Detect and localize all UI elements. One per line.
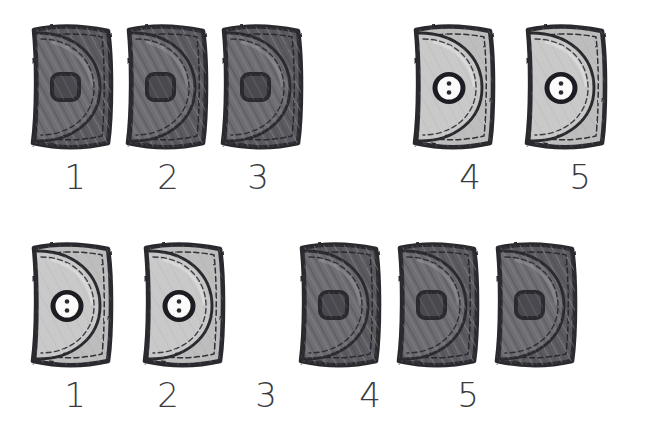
count-numeral-top-row-2: 2 (138, 160, 198, 194)
purse-bottom-row-5 (486, 240, 582, 370)
purse-top-row-4 (404, 22, 500, 152)
top-row: 1 2 (0, 0, 669, 210)
purse-top-row-1 (22, 22, 118, 152)
purse-top-row-2 (117, 22, 213, 152)
purse-bottom-row-2 (134, 240, 230, 370)
square-clasp-icon (52, 74, 79, 100)
count-numeral-top-row-1: 1 (45, 160, 105, 194)
purse-bottom-row-3 (290, 240, 386, 370)
purse-bottom-row-4 (388, 240, 484, 370)
round-button-icon (545, 72, 578, 104)
purse-bottom-row-1 (22, 240, 118, 370)
bottom-row: 1 2 (0, 222, 669, 439)
worksheet-canvas: 1 2 (0, 0, 669, 439)
count-numeral-bottom-row-1: 1 (45, 378, 105, 412)
round-button-icon (51, 290, 84, 322)
count-numeral-bottom-row-3: 3 (236, 378, 296, 412)
count-numeral-top-row-5: 5 (550, 160, 610, 194)
count-numeral-bottom-row-4: 4 (340, 378, 400, 412)
purse-top-row-3 (212, 22, 308, 152)
count-numeral-top-row-4: 4 (440, 160, 500, 194)
purse-top-row-5 (516, 22, 612, 152)
square-clasp-icon (320, 292, 347, 318)
round-button-icon (433, 72, 466, 104)
count-numeral-bottom-row-2: 2 (138, 378, 198, 412)
round-button-icon (163, 290, 196, 322)
square-clasp-icon (516, 292, 543, 318)
count-numeral-top-row-3: 3 (228, 160, 288, 194)
square-clasp-icon (242, 74, 269, 100)
square-clasp-icon (147, 74, 174, 100)
count-numeral-bottom-row-5: 5 (438, 378, 498, 412)
square-clasp-icon (418, 292, 445, 318)
